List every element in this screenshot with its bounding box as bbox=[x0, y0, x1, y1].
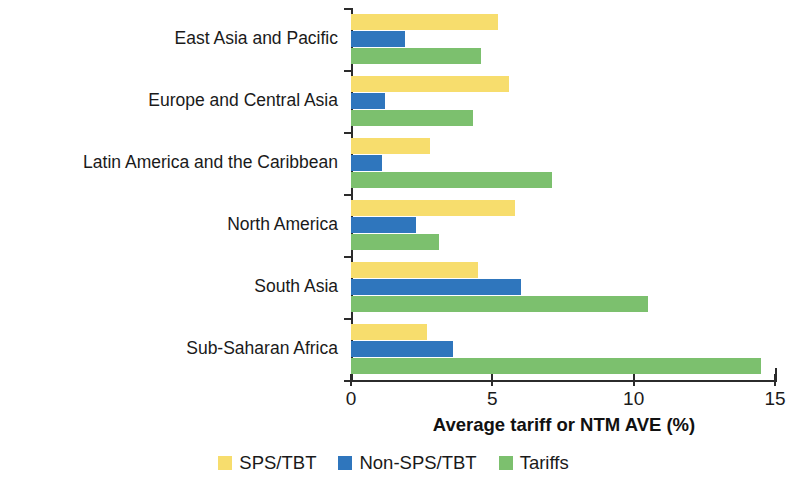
y-axis-category-label: Latin America and the Caribbean bbox=[0, 152, 338, 173]
bar bbox=[351, 48, 481, 64]
bar bbox=[351, 358, 761, 374]
bar bbox=[351, 200, 515, 216]
legend-label: Tariffs bbox=[520, 452, 569, 474]
x-axis-tick bbox=[774, 374, 776, 386]
bar bbox=[351, 341, 453, 357]
legend-item[interactable]: Non-SPS/TBT bbox=[338, 452, 476, 474]
legend-swatch-icon bbox=[218, 456, 232, 470]
legend-label: Non-SPS/TBT bbox=[359, 452, 476, 474]
chart-legend: SPS/TBTNon-SPS/TBTTariffs bbox=[0, 452, 787, 474]
legend-swatch-icon bbox=[338, 456, 352, 470]
legend-label: SPS/TBT bbox=[239, 452, 316, 474]
y-axis-category-label: North America bbox=[0, 214, 338, 235]
y-axis-category-label: Sub-Saharan Africa bbox=[0, 338, 338, 359]
bar bbox=[351, 14, 498, 30]
x-axis-tick bbox=[350, 374, 352, 386]
bar bbox=[351, 93, 385, 109]
y-axis-tick bbox=[344, 194, 353, 196]
x-axis-tick-label: 5 bbox=[487, 388, 498, 410]
bar bbox=[351, 324, 427, 340]
x-axis-title: Average tariff or NTM AVE (%) bbox=[351, 414, 777, 436]
x-axis-tick-label: 0 bbox=[346, 388, 357, 410]
legend-swatch-icon bbox=[499, 456, 513, 470]
bar bbox=[351, 172, 552, 188]
bar bbox=[351, 110, 473, 126]
y-axis-tick bbox=[344, 318, 353, 320]
y-axis-tick bbox=[344, 70, 353, 72]
y-axis-tick bbox=[344, 8, 353, 10]
bar bbox=[351, 217, 416, 233]
bar bbox=[351, 31, 405, 47]
bar bbox=[351, 234, 439, 250]
bar bbox=[351, 296, 648, 312]
bar bbox=[351, 279, 521, 295]
y-axis-category-label: Europe and Central Asia bbox=[0, 90, 338, 111]
bar bbox=[351, 138, 430, 154]
x-axis-tick bbox=[491, 374, 493, 386]
y-axis-category-label: South Asia bbox=[0, 276, 338, 297]
legend-item[interactable]: SPS/TBT bbox=[218, 452, 316, 474]
bar bbox=[351, 76, 509, 92]
y-axis-category-label: East Asia and Pacific bbox=[0, 28, 338, 49]
bar bbox=[351, 262, 478, 278]
bar bbox=[351, 155, 382, 171]
x-axis-tick-label: 10 bbox=[623, 388, 644, 410]
y-axis-tick bbox=[344, 256, 353, 258]
x-axis-tick-label: 15 bbox=[764, 388, 785, 410]
bar-chart: 051015 East Asia and PacificEurope and C… bbox=[0, 0, 787, 485]
legend-item[interactable]: Tariffs bbox=[499, 452, 569, 474]
y-axis-tick bbox=[344, 132, 353, 134]
x-axis-tick bbox=[633, 374, 635, 386]
x-axis-line bbox=[351, 380, 777, 382]
